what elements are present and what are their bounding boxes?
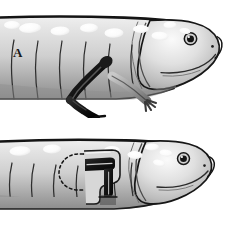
dorsal-spot xyxy=(145,143,159,150)
eye-a xyxy=(184,33,196,45)
implanted-graft-b xyxy=(84,150,120,205)
graft-limb-digit xyxy=(95,116,105,117)
head-shape-b xyxy=(135,141,212,204)
panel-a-illustration xyxy=(0,0,235,118)
nostril-b xyxy=(203,164,206,167)
eye-highlight-a xyxy=(188,36,190,38)
eye-b xyxy=(178,153,190,165)
eye-highlight-b xyxy=(181,156,183,158)
graft-casing-highlight-b xyxy=(86,152,110,153)
dorsal-spot xyxy=(164,22,177,29)
graft-limb-lower-a xyxy=(70,100,96,118)
head-shape-a xyxy=(138,20,220,90)
salamander-head-b xyxy=(129,141,215,204)
host-limb-digit xyxy=(145,102,146,111)
panel-a-label: A xyxy=(13,46,22,59)
panel-a: A xyxy=(0,0,235,118)
figure-root: A xyxy=(0,0,235,237)
panel-b: B xyxy=(0,119,235,237)
nostril-a xyxy=(211,45,214,48)
panel-b-illustration xyxy=(0,119,235,237)
dorsal-spot xyxy=(4,21,20,29)
dorsal-spot xyxy=(133,25,149,33)
